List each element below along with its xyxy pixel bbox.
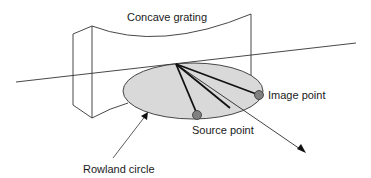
- source-point-label: Source point: [192, 125, 254, 136]
- source-point-marker: [193, 111, 202, 120]
- rowland-pointer-line: [113, 115, 146, 158]
- rowland-circle-label: Rowland circle: [83, 164, 155, 175]
- grating-label: Concave grating: [127, 12, 207, 23]
- image-point-label: Image point: [268, 90, 325, 101]
- diffraction-arrow-head: [297, 144, 306, 153]
- rowland-pointer-arrow-head: [141, 112, 148, 120]
- rowland-circle: [123, 63, 263, 119]
- image-point-marker: [255, 91, 264, 100]
